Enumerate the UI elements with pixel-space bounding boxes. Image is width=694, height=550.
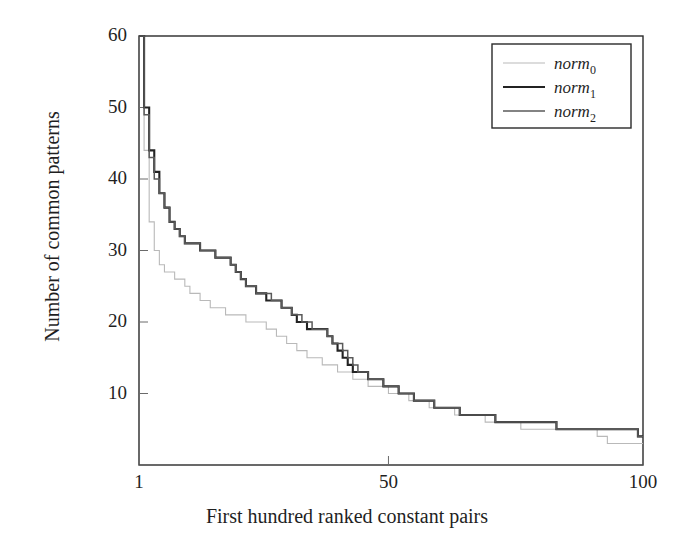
y-tick-label: 20 xyxy=(87,310,127,332)
plot-canvas: norm0norm1norm2 xyxy=(0,0,694,550)
x-tick-label: 50 xyxy=(358,471,418,493)
y-axis-title: Number of common patterns xyxy=(41,111,63,342)
y-tick-label: 40 xyxy=(87,167,127,189)
chart-figure: norm0norm1norm2 102030405060 150100 Firs… xyxy=(0,0,694,550)
x-tick-label: 1 xyxy=(109,471,169,493)
y-tick-label: 60 xyxy=(87,24,127,46)
legend: norm0norm1norm2 xyxy=(492,44,631,128)
y-tick-label: 10 xyxy=(87,382,127,404)
y-tick-label: 50 xyxy=(87,96,127,118)
x-tick-label: 100 xyxy=(613,471,673,493)
y-tick-label: 30 xyxy=(87,239,127,261)
y-axis-title-wrapper: Number of common patterns xyxy=(41,7,64,447)
x-axis-title: First hundred ranked constant pairs xyxy=(0,505,694,528)
